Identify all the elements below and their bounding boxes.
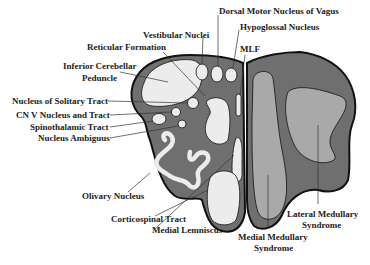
label-olivary-nucleus: Olivary Nucleus <box>82 191 145 201</box>
nucleus-ambiguus <box>178 120 186 128</box>
label-lateral-medullary-syndrome-2: Syndrome <box>302 220 341 230</box>
label-lateral-medullary-syndrome-1: Lateral Medullary <box>287 209 359 219</box>
diagram-canvas: Dorsal Motor Nucleus of Vagus Hypoglossa… <box>0 0 370 265</box>
label-corticospinal-tract: Corticospinal Tract <box>111 214 186 224</box>
hypoglossal-nucleus <box>225 68 237 82</box>
label-spinothalamic-tract: Spinothalamic Tract <box>30 122 108 132</box>
nucleus-solitary-tract <box>188 98 199 109</box>
label-hypoglossal-nucleus: Hypoglossal Nucleus <box>240 22 320 32</box>
label-medial-medullary-syndrome-1: Medial Medullary <box>238 232 308 242</box>
label-mlf: MLF <box>240 44 260 54</box>
label-vestibular-nuclei: Vestibular Nuclei <box>143 30 210 40</box>
label-cn-v-nucleus-tract: CN V Nucleus and Tract <box>16 110 110 120</box>
spinothalamic-tract <box>152 114 166 125</box>
mlf-structure <box>236 94 241 116</box>
label-dorsal-motor-nucleus-vagus: Dorsal Motor Nucleus of Vagus <box>219 6 339 16</box>
medulla-diagram: Dorsal Motor Nucleus of Vagus Hypoglossa… <box>0 0 370 265</box>
label-inferior-cerebellar-peduncle-2: Peduncle <box>82 73 117 83</box>
label-nucleus-ambiguus: Nucleus Ambiguus <box>38 133 110 143</box>
cn-v-nucleus <box>172 108 181 117</box>
label-reticular-formation: Reticular Formation <box>87 42 166 52</box>
reticular-formation <box>205 98 230 144</box>
vestibular-nucleus <box>196 64 208 80</box>
dorsal-motor-nucleus-vagus <box>211 66 223 82</box>
label-nucleus-solitary-tract: Nucleus of Solitary Tract <box>12 96 108 106</box>
label-medial-medullary-syndrome-2: Syndrome <box>254 243 293 253</box>
label-medial-lemniscus: Medial Lemniscus <box>152 225 223 235</box>
corticospinal-tract <box>207 171 240 225</box>
label-inferior-cerebellar-peduncle-1: Inferior Cerebellar <box>63 61 136 71</box>
